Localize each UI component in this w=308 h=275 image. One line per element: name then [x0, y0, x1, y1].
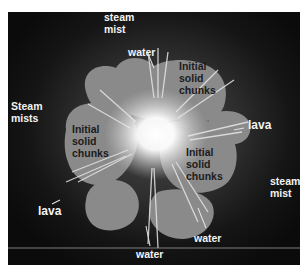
label-steam-mist-right: steam mist	[270, 175, 300, 199]
label-water-bottom-right: water	[194, 232, 221, 244]
lava-water-diagram: steam mist water Steam mists Initial sol…	[8, 12, 300, 265]
label-water-top: water	[128, 46, 155, 58]
label-steam-mists-left: Steam mists	[11, 100, 43, 124]
label-lava-right: lava	[248, 119, 271, 131]
label-chunks-right: Initial solid chunks	[186, 146, 223, 182]
label-steam-mist-top: steam mist	[104, 12, 134, 35]
label-chunks-left: Initial solid chunks	[72, 123, 109, 159]
label-lava-left: lava	[38, 205, 61, 217]
label-chunks-upper-right: Initial solid chunks	[179, 60, 216, 96]
label-water-bottom: water	[136, 248, 163, 260]
